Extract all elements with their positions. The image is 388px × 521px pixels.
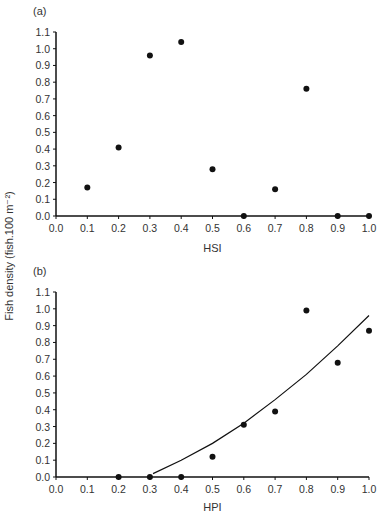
x-tick-label: 1.0 [362, 222, 377, 234]
x-tick-label: 0.3 [143, 222, 158, 234]
x-axis-title: HSI [203, 242, 221, 254]
y-tick-label: 0.4 [35, 143, 50, 155]
data-point [84, 185, 90, 191]
x-tick-label: 0.1 [80, 222, 95, 234]
y-tick-label: 0.5 [35, 387, 50, 399]
data-point [335, 360, 341, 366]
x-tick-label: 0.9 [330, 483, 345, 495]
x-tick-label: 0.8 [299, 222, 314, 234]
data-point [147, 52, 153, 58]
x-tick-label: 1.0 [362, 483, 377, 495]
data-point [210, 166, 216, 172]
x-tick-label: 0.9 [330, 222, 345, 234]
x-tick-label: 0.3 [143, 483, 158, 495]
y-tick-label: 1.1 [35, 26, 50, 38]
data-point [116, 474, 122, 480]
y-tick-label: 0.9 [35, 320, 50, 332]
y-tick-label: 0.2 [35, 437, 50, 449]
y-tick-label: 0.6 [35, 370, 50, 382]
data-point [303, 308, 309, 314]
data-point [272, 408, 278, 414]
x-tick-label: 0.0 [49, 222, 64, 234]
data-point [335, 213, 341, 219]
data-point [366, 213, 372, 219]
y-tick-label: 0.7 [35, 353, 50, 365]
data-point [366, 328, 372, 334]
panel-label: (b) [33, 265, 46, 277]
figure: (a)0.00.10.20.30.40.50.60.70.80.91.01.10… [0, 0, 388, 521]
y-tick-label: 0.8 [35, 336, 50, 348]
x-tick-label: 0.6 [236, 483, 251, 495]
y-tick-label: 0.3 [35, 421, 50, 433]
y-tick-label: 0.2 [35, 177, 50, 189]
y-tick-label: 0.1 [35, 454, 50, 466]
y-tick-label: 0.1 [35, 193, 50, 205]
x-tick-label: 0.4 [174, 222, 189, 234]
x-tick-label: 0.6 [236, 222, 251, 234]
data-point [178, 474, 184, 480]
y-tick-label: 0.4 [35, 404, 50, 416]
x-tick-label: 0.4 [174, 483, 189, 495]
x-tick-label: 0.7 [268, 222, 283, 234]
data-point [241, 213, 247, 219]
x-tick-label: 0.5 [205, 483, 220, 495]
data-point [147, 474, 153, 480]
y-tick-label: 0.5 [35, 126, 50, 138]
data-point [116, 144, 122, 150]
x-tick-label: 0.1 [80, 483, 95, 495]
data-point [272, 186, 278, 192]
x-tick-label: 0.8 [299, 483, 314, 495]
y-tick-label: 1.0 [35, 43, 50, 55]
chart-panel-b: (b)0.00.10.20.30.40.50.60.70.80.91.01.10… [33, 265, 376, 513]
x-tick-label: 0.2 [111, 222, 126, 234]
x-tick-label: 0.2 [111, 483, 126, 495]
data-point [178, 39, 184, 45]
y-tick-label: 0.6 [35, 110, 50, 122]
x-tick-label: 0.5 [205, 222, 220, 234]
y-tick-label: 1.1 [35, 286, 50, 298]
y-tick-label: 0.0 [35, 210, 50, 222]
fitted-curve [153, 316, 369, 474]
y-tick-label: 0.9 [35, 59, 50, 71]
y-tick-label: 0.8 [35, 76, 50, 88]
y-tick-label: 0.3 [35, 160, 50, 172]
data-point [210, 454, 216, 460]
data-point [303, 86, 309, 92]
y-tick-label: 1.0 [35, 303, 50, 315]
y-axis-title: Fish density (fish.100 m⁻²) [3, 191, 15, 320]
x-tick-label: 0.0 [49, 483, 64, 495]
chart-panel-a: (a)0.00.10.20.30.40.50.60.70.80.91.01.10… [33, 5, 376, 254]
x-axis-title: HPI [203, 501, 221, 513]
panel-label: (a) [33, 5, 46, 17]
x-tick-label: 0.7 [268, 483, 283, 495]
y-tick-label: 0.0 [35, 471, 50, 483]
y-tick-label: 0.7 [35, 93, 50, 105]
